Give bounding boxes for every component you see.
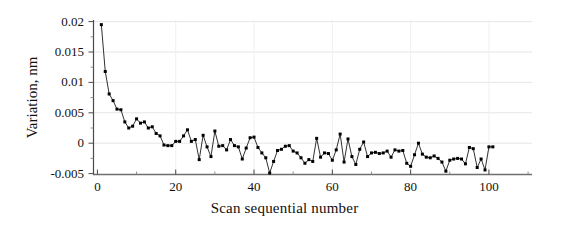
data-point xyxy=(397,150,400,153)
data-point xyxy=(390,156,393,159)
data-point xyxy=(413,153,416,156)
data-point xyxy=(108,92,111,95)
data-point xyxy=(339,133,342,136)
data-point xyxy=(346,137,349,140)
x-tick-label: 100 xyxy=(479,179,499,195)
data-point xyxy=(194,138,197,141)
data-point xyxy=(358,148,361,151)
data-point xyxy=(178,140,181,143)
y-axis-ticks xyxy=(89,22,94,174)
data-point xyxy=(100,23,103,26)
data-point xyxy=(307,158,310,161)
data-point xyxy=(221,144,224,147)
data-point xyxy=(241,158,244,161)
data-point xyxy=(166,144,169,147)
data-point xyxy=(256,146,259,149)
chart-figure: Scan sequential number Variation, nm -0.… xyxy=(0,0,569,233)
y-tick-label: 0.01 xyxy=(20,74,84,90)
data-series-markers xyxy=(100,23,495,174)
data-point xyxy=(472,147,475,150)
y-tick-label: 0.015 xyxy=(20,44,84,60)
data-point xyxy=(448,159,451,162)
data-point xyxy=(484,168,487,171)
data-point xyxy=(182,134,185,137)
data-point xyxy=(159,134,162,137)
y-tick-label: 0.005 xyxy=(20,105,84,121)
data-point xyxy=(272,160,275,163)
data-point xyxy=(468,146,471,149)
data-point xyxy=(198,158,201,161)
y-axis-title: Variation, nm xyxy=(24,13,41,183)
data-point xyxy=(170,144,173,147)
data-point xyxy=(335,148,338,151)
x-tick-label: 20 xyxy=(169,179,182,195)
data-point xyxy=(464,162,467,165)
data-point xyxy=(460,158,463,161)
data-point xyxy=(225,148,228,151)
data-point xyxy=(119,108,122,111)
data-point xyxy=(393,148,396,151)
data-point xyxy=(202,134,205,137)
data-point xyxy=(382,151,385,154)
data-point xyxy=(374,151,377,154)
data-point xyxy=(127,127,130,130)
data-point xyxy=(429,156,432,159)
data-point xyxy=(151,125,154,128)
data-point xyxy=(444,170,447,173)
x-axis-title: Scan sequential number xyxy=(0,200,569,217)
y-tick-label: -0.005 xyxy=(20,166,84,182)
data-point xyxy=(491,145,494,148)
data-point xyxy=(311,160,314,163)
data-point xyxy=(303,162,306,165)
x-axis-ticks xyxy=(97,170,528,175)
data-point xyxy=(280,148,283,151)
data-point xyxy=(292,150,295,153)
data-point xyxy=(480,158,483,161)
data-point xyxy=(417,142,420,145)
variation-line-chart xyxy=(0,0,569,233)
x-tick-label: 80 xyxy=(404,179,417,195)
data-point xyxy=(386,150,389,153)
data-point xyxy=(213,130,216,133)
data-point xyxy=(115,108,118,111)
x-tick-label: 60 xyxy=(326,179,339,195)
data-point xyxy=(135,117,138,120)
data-point xyxy=(123,120,126,123)
data-point xyxy=(249,136,252,139)
data-point xyxy=(452,158,455,161)
data-point xyxy=(206,145,209,148)
axis-lines xyxy=(93,20,532,175)
data-point xyxy=(327,152,330,155)
data-point xyxy=(362,140,365,143)
data-point xyxy=(233,144,236,147)
data-point xyxy=(405,162,408,165)
data-point xyxy=(401,149,404,152)
data-point xyxy=(343,161,346,164)
data-point xyxy=(323,151,326,154)
data-point xyxy=(162,144,165,147)
data-point xyxy=(190,140,193,143)
data-point xyxy=(456,157,459,160)
x-tick-label: 0 xyxy=(94,179,101,195)
data-point xyxy=(112,99,115,102)
data-point xyxy=(433,154,436,157)
data-point xyxy=(209,155,212,158)
data-point xyxy=(487,145,490,148)
data-point xyxy=(276,149,279,152)
y-tick-label: 0.02 xyxy=(20,14,84,30)
data-point xyxy=(425,156,428,159)
data-point xyxy=(350,155,353,158)
x-tick-label: 40 xyxy=(248,179,261,195)
data-point xyxy=(253,136,256,139)
data-point xyxy=(131,125,134,128)
y-tick-label: 0 xyxy=(20,135,84,151)
data-point xyxy=(237,145,240,148)
data-point xyxy=(174,140,177,143)
data-point xyxy=(217,145,220,148)
data-point xyxy=(370,151,373,154)
data-point xyxy=(139,122,142,125)
data-point xyxy=(143,120,146,123)
grid-lines xyxy=(94,20,533,174)
data-point xyxy=(315,137,318,140)
data-point xyxy=(366,155,369,158)
